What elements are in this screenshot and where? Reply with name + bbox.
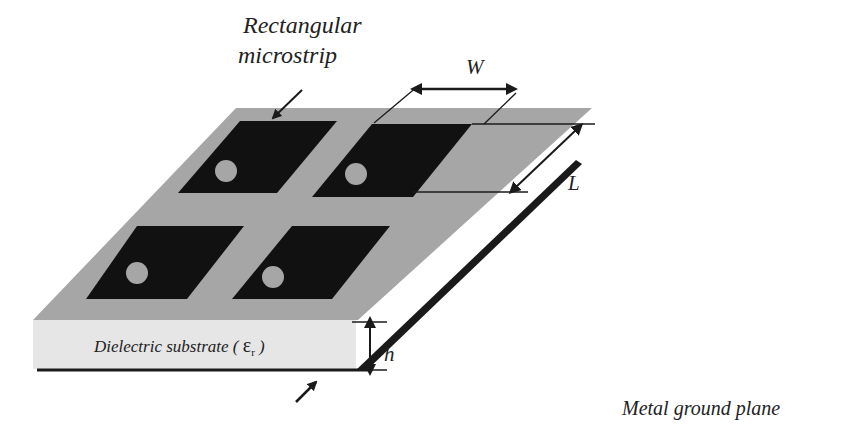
feed-point-top-left bbox=[215, 160, 237, 182]
width-label: W bbox=[466, 55, 484, 80]
feed-point-bottom-right bbox=[262, 266, 284, 288]
antenna-diagram: Rectangular microstrip W L h Dielectric … bbox=[0, 0, 845, 443]
ground-plane-label: Metal ground plane bbox=[622, 397, 780, 420]
substrate-close: ) bbox=[255, 337, 265, 356]
feed-point-top-right bbox=[345, 163, 367, 185]
patch-title-line1: Rectangular bbox=[243, 12, 362, 38]
substrate-text: Dielectric substrate ( bbox=[94, 337, 243, 356]
ground-pointer-arrow bbox=[296, 382, 316, 402]
length-label: L bbox=[568, 171, 580, 196]
patch-title-line2: microstrip bbox=[238, 42, 337, 68]
feed-point-bottom-left bbox=[126, 262, 148, 284]
epsilon-symbol: ε bbox=[243, 334, 251, 356]
height-label: h bbox=[384, 342, 395, 367]
substrate-label: Dielectric substrate ( εr ) bbox=[94, 334, 265, 358]
diagram-graphic bbox=[0, 0, 845, 443]
